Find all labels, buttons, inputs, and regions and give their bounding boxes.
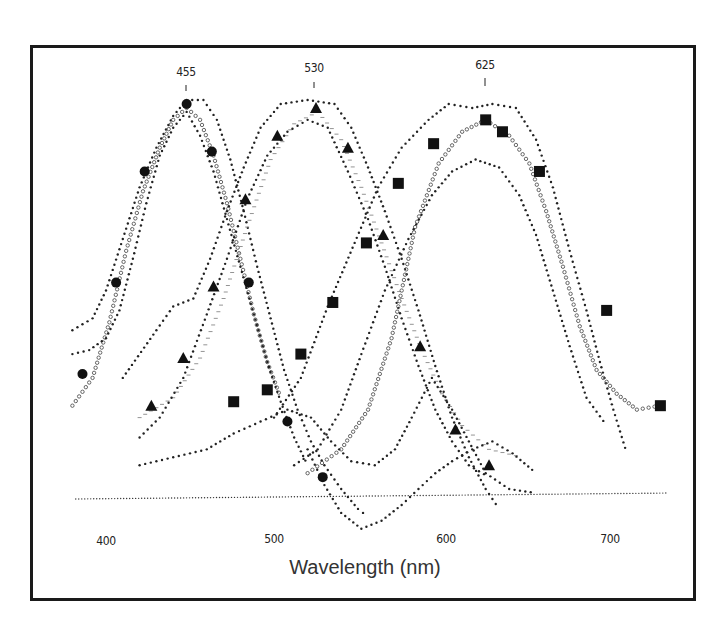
triangle-marker — [377, 229, 389, 240]
square-marker — [295, 349, 306, 360]
triangle-marker — [208, 281, 220, 292]
sensitivity-envelope-curves — [71, 99, 667, 530]
square-marker — [480, 114, 491, 125]
square-marker — [262, 384, 273, 395]
square-marker — [497, 126, 508, 137]
x-axis-title: Wavelength (nm) — [289, 556, 441, 579]
square-marker — [428, 138, 439, 149]
square-marker — [601, 305, 612, 316]
square-marker — [228, 396, 239, 407]
peak-tick-marks — [186, 78, 485, 91]
peak-label-red: 625 — [475, 58, 495, 72]
envelope-curve — [138, 112, 518, 456]
peak-label-blue: 455 — [176, 65, 196, 79]
triangle-marker — [342, 142, 354, 153]
triangle-marker — [271, 130, 283, 141]
triangle-marker — [483, 459, 495, 470]
circle-marker — [77, 369, 87, 379]
x-tick-700: 700 — [600, 532, 620, 546]
envelope-curve — [293, 158, 605, 466]
circle-marker — [140, 166, 150, 176]
square-marker — [393, 178, 404, 189]
triangle-marker — [414, 340, 426, 351]
envelope-curve — [273, 103, 627, 449]
envelope-curve — [306, 440, 533, 530]
triangle-marker — [177, 352, 189, 363]
envelope-curve — [71, 111, 306, 462]
circle-marker — [207, 147, 217, 157]
peak-label-green: 530 — [304, 61, 324, 75]
envelope-curve — [75, 492, 666, 499]
x-tick-400: 400 — [96, 534, 116, 548]
envelope-curve — [71, 106, 281, 407]
triangle-marker — [449, 424, 461, 435]
square-marker — [327, 297, 338, 308]
circle-marker — [111, 278, 121, 288]
series-circle-markers — [77, 99, 327, 482]
data-markers — [77, 99, 665, 482]
triangle-marker — [310, 102, 322, 113]
square-marker — [361, 237, 372, 248]
circle-marker — [244, 278, 254, 288]
series-square-markers — [228, 114, 666, 411]
circle-marker — [282, 417, 292, 427]
x-tick-600: 600 — [436, 532, 456, 546]
triangle-marker — [145, 400, 157, 411]
circle-marker — [182, 99, 192, 109]
envelope-curve — [138, 119, 485, 476]
square-marker — [655, 400, 666, 411]
circle-marker — [318, 472, 328, 482]
square-marker — [534, 166, 545, 177]
x-tick-500: 500 — [264, 532, 284, 546]
